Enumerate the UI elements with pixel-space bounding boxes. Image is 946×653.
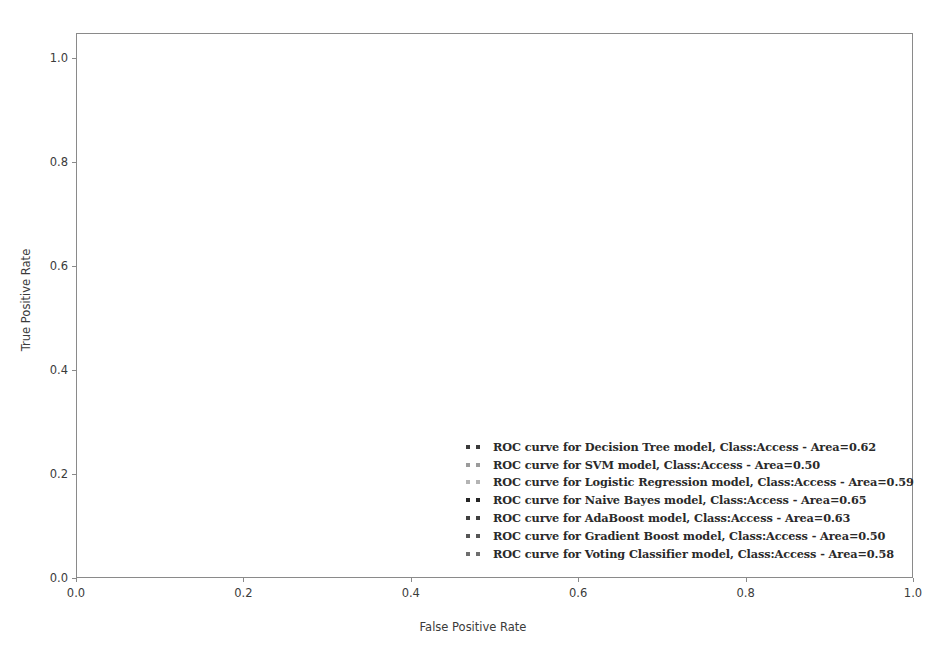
x-tick-label: 0.2: [223, 586, 263, 600]
x-tick-mark: [746, 578, 747, 582]
x-tick-mark: [913, 578, 914, 582]
x-tick-label: 0.6: [558, 586, 598, 600]
legend-item: ROC curve for Voting Classifier model, C…: [463, 545, 903, 563]
x-tick-label: 0.4: [391, 586, 431, 600]
y-tick-label: 0.4: [34, 363, 68, 377]
y-tick-mark: [72, 162, 76, 163]
legend-item: ROC curve for AdaBoost model, Class:Acce…: [463, 509, 903, 527]
x-tick-mark: [411, 578, 412, 582]
y-tick-mark: [72, 370, 76, 371]
legend-item: ROC curve for Naive Bayes model, Class:A…: [463, 491, 903, 509]
legend-label: ROC curve for SVM model, Class:Access - …: [493, 458, 820, 472]
legend-label: ROC curve for AdaBoost model, Class:Acce…: [493, 511, 850, 525]
legend-label: ROC curve for Gradient Boost model, Clas…: [493, 529, 885, 543]
x-tick-label: 1.0: [893, 586, 933, 600]
y-tick-label: 0.0: [34, 571, 68, 585]
roc-curve-figure: 0.00.20.40.60.81.0 0.00.20.40.60.81.0 Tr…: [0, 0, 946, 653]
legend-marker-icon: [463, 549, 487, 559]
x-tick-label: 0.8: [726, 586, 766, 600]
legend-marker-icon: [463, 513, 487, 523]
legend-label: ROC curve for Logistic Regression model,…: [493, 475, 914, 489]
y-tick-mark: [72, 58, 76, 59]
legend-marker-icon: [463, 495, 487, 505]
x-tick-label: 0.0: [56, 586, 96, 600]
y-tick-mark: [72, 474, 76, 475]
legend-label: ROC curve for Naive Bayes model, Class:A…: [493, 493, 866, 507]
legend-item: ROC curve for Gradient Boost model, Clas…: [463, 527, 903, 545]
x-axis-title: False Positive Rate: [0, 620, 946, 634]
legend-marker-icon: [463, 531, 487, 541]
x-tick-mark: [243, 578, 244, 582]
y-tick-label: 0.6: [34, 259, 68, 273]
x-tick-mark: [578, 578, 579, 582]
y-tick-label: 1.0: [34, 51, 68, 65]
y-axis-title: True Positive Rate: [19, 230, 33, 370]
y-tick-label: 0.2: [34, 467, 68, 481]
y-tick-mark: [72, 266, 76, 267]
x-tick-mark: [76, 578, 77, 582]
legend-marker-icon: [463, 477, 487, 487]
legend-label: ROC curve for Voting Classifier model, C…: [493, 547, 894, 561]
legend-label: ROC curve for Decision Tree model, Class…: [493, 440, 876, 454]
legend-marker-icon: [463, 442, 487, 452]
chart-legend: ROC curve for Decision Tree model, Class…: [463, 438, 903, 563]
legend-item: ROC curve for Logistic Regression model,…: [463, 474, 903, 492]
y-tick-label: 0.8: [34, 155, 68, 169]
legend-item: ROC curve for SVM model, Class:Access - …: [463, 456, 903, 474]
legend-marker-icon: [463, 460, 487, 470]
legend-item: ROC curve for Decision Tree model, Class…: [463, 438, 903, 456]
